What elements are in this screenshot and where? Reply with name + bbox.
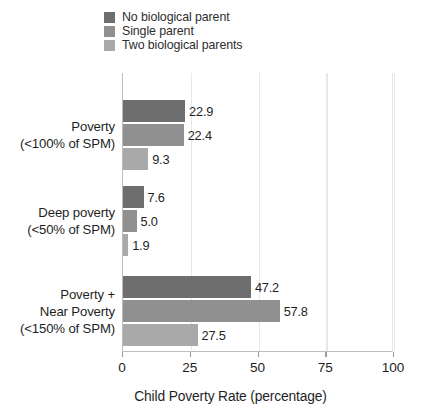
plot-area: 22.922.49.37.65.01.947.257.827.5: [122, 73, 393, 352]
x-axis-tick-label: 75: [318, 360, 333, 375]
y-axis-category-label: Poverty(<100% of SPM): [20, 118, 115, 152]
x-axis-tick-label: 0: [118, 360, 126, 375]
bar-value-label: 9.3: [148, 152, 169, 167]
bar-value-label: 22.9: [185, 104, 213, 119]
bar-group: 7.65.01.9: [123, 186, 392, 258]
bar-value-label: 57.8: [280, 304, 308, 319]
bar-value-label: 7.6: [144, 190, 165, 205]
y-axis-label-line: Near Poverty: [20, 303, 115, 320]
x-axis-tick-label: 100: [382, 360, 405, 375]
bar-row: 22.9: [123, 100, 392, 122]
x-axis-tick: [393, 352, 394, 357]
y-axis-label-line: Poverty: [20, 118, 115, 135]
bar-value-label: 1.9: [128, 238, 149, 253]
bar[interactable]: [123, 124, 184, 146]
bar-value-label: 5.0: [137, 214, 158, 229]
bar-row: 1.9: [123, 234, 392, 256]
legend-item: Single parent: [104, 24, 344, 38]
x-axis-title-text: Child Poverty Rate (percentage): [94, 389, 326, 404]
chart-figure: No biological parent Single parent Two b…: [0, 0, 421, 416]
legend-swatch-icon: [104, 12, 115, 23]
legend-item: No biological parent: [104, 10, 344, 24]
bar[interactable]: [123, 324, 198, 346]
x-axis-tick: [325, 352, 326, 357]
x-axis-tick: [258, 352, 259, 357]
y-axis-label-line: (<150% of SPM): [20, 320, 115, 337]
x-axis-tick-label: 50: [250, 360, 265, 375]
legend-item-label: Two biological parents: [122, 38, 242, 52]
legend-item-label: Single parent: [122, 24, 194, 38]
bar[interactable]: [123, 210, 137, 232]
bar-group: 47.257.827.5: [123, 276, 392, 348]
bar-value-label: 22.4: [184, 128, 212, 143]
bar-row: 57.8: [123, 300, 392, 322]
x-axis-tick: [190, 352, 191, 357]
chart-legend: No biological parent Single parent Two b…: [104, 10, 344, 52]
bar[interactable]: [123, 276, 251, 298]
legend-swatch-icon: [104, 26, 115, 37]
legend-item: Two biological parents: [104, 38, 344, 52]
y-axis-label-line: (<100% of SPM): [20, 135, 115, 152]
bar-row: 47.2: [123, 276, 392, 298]
bar[interactable]: [123, 148, 148, 170]
bar-group: 22.922.49.3: [123, 100, 392, 172]
y-axis-label-line: Poverty +: [20, 286, 115, 303]
bar-row: 9.3: [123, 148, 392, 170]
bar[interactable]: [123, 186, 144, 208]
bar-value-label: 27.5: [198, 328, 226, 343]
y-axis-category-label: Deep poverty(<50% of SPM): [27, 204, 115, 238]
bar-row: 7.6: [123, 186, 392, 208]
legend-item-label: No biological parent: [122, 10, 230, 24]
x-axis-tick: [122, 352, 123, 357]
legend-swatch-icon: [104, 40, 115, 51]
bar[interactable]: [123, 100, 185, 122]
gridline: [394, 73, 395, 351]
x-axis-tick-label: 25: [182, 360, 197, 375]
bar-row: 22.4: [123, 124, 392, 146]
y-axis-category-label: Poverty +Near Poverty(<150% of SPM): [20, 286, 115, 337]
bar-value-label: 47.2: [251, 280, 279, 295]
y-axis-label-line: (<50% of SPM): [27, 221, 115, 238]
bar-row: 27.5: [123, 324, 392, 346]
y-axis-label-line: Deep poverty: [27, 204, 115, 221]
x-axis-title: Child Poverty Rate (percentage): [0, 389, 421, 404]
bar-row: 5.0: [123, 210, 392, 232]
bar[interactable]: [123, 300, 280, 322]
